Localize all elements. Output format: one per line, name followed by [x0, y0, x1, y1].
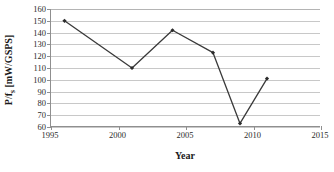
y-axis-title-text: P/fs [mW/GSPS] [3, 35, 17, 105]
x-axis-tick-label: 2015 [300, 131, 334, 140]
x-axis-tick-label: 2000 [98, 131, 138, 140]
chart-container: P/fs [mW/GSPS] 6070809010011012013014015… [0, 0, 334, 172]
y-axis-tick-label: 70 [18, 111, 46, 120]
x-axis-tick-labels: 19952000200520102015 [50, 131, 320, 145]
series-polyline [65, 21, 268, 124]
x-axis-tick-label: 2010 [233, 131, 273, 140]
y-axis-tick-label: 120 [18, 52, 46, 61]
y-axis-tick-labels: 60708090100110120130140150160 [18, 9, 46, 127]
x-axis-tick-label: 2005 [165, 131, 205, 140]
y-axis-subscript: s [8, 90, 17, 93]
data-series-line [51, 9, 321, 127]
x-axis-tick-label: 1995 [30, 131, 70, 140]
y-axis-tick-label: 150 [18, 17, 46, 26]
y-axis-tick-label: 110 [18, 64, 46, 73]
y-axis-tick-label: 130 [18, 40, 46, 49]
y-axis-tick-label: 160 [18, 5, 46, 14]
x-axis-title: Year [50, 150, 320, 161]
y-axis-tick-label: 80 [18, 99, 46, 108]
plot-area [50, 9, 320, 127]
y-axis-tick-label: 100 [18, 76, 46, 85]
y-axis-title: P/fs [mW/GSPS] [0, 0, 20, 140]
y-axis-tick-label: 140 [18, 28, 46, 37]
y-axis-tick-label: 90 [18, 87, 46, 96]
